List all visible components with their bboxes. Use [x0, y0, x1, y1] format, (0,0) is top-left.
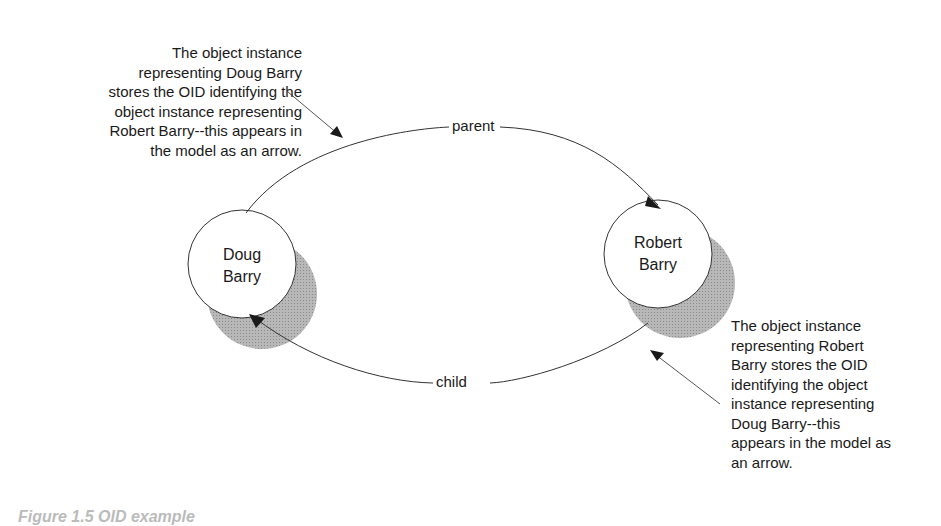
- annotation-line: appears in the model as: [731, 433, 891, 453]
- node-label-doug-barry: Doug Barry: [202, 244, 282, 288]
- annotation-line: representing Robert: [731, 336, 891, 356]
- annotation-line: stores the OID identifying the: [109, 82, 302, 102]
- node-label-line: Robert: [618, 232, 698, 254]
- annotation-right: The object instance representing Robert …: [731, 316, 891, 472]
- annotation-pointer-left-head: [330, 126, 343, 138]
- annotation-line: The object instance: [109, 43, 302, 63]
- annotation-pointer-right: [656, 355, 720, 404]
- annotation-line: Barry stores the OID: [731, 355, 891, 375]
- annotation-line: representing Doug Barry: [109, 63, 302, 83]
- node-label-line: Barry: [202, 266, 282, 288]
- annotation-line: the model as an arrow.: [109, 141, 302, 161]
- annotation-line: Robert Barry--this appears in: [109, 121, 302, 141]
- node-label-robert-barry: Robert Barry: [618, 232, 698, 276]
- annotation-line: instance representing: [731, 394, 891, 414]
- annotation-line: an arrow.: [731, 453, 891, 473]
- annotation-line: Doug Barry--this: [731, 414, 891, 434]
- annotation-line: object instance representing: [109, 102, 302, 122]
- node-label-line: Barry: [618, 254, 698, 276]
- edge-label-parent: parent: [449, 117, 498, 134]
- node-label-line: Doug: [202, 244, 282, 266]
- figure-caption: Figure 1.5 OID example: [18, 508, 195, 526]
- edge-label-child: child: [433, 373, 470, 390]
- annotation-line: identifying the object: [731, 375, 891, 395]
- edge-parent: [246, 127, 658, 213]
- annotation-left: The object instance representing Doug Ba…: [109, 43, 302, 160]
- annotation-line: The object instance: [731, 316, 891, 336]
